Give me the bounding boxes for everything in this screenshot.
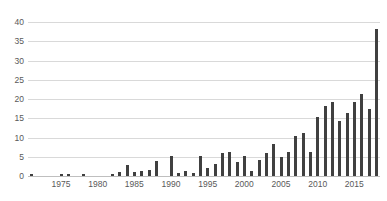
x-axis-tick-label: 1995: [198, 179, 217, 189]
bar: [67, 174, 70, 176]
bar: [346, 113, 349, 176]
bar: [309, 152, 312, 176]
bar: [258, 160, 261, 176]
x-axis-tick-label: 2000: [235, 179, 254, 189]
bar: [155, 161, 158, 176]
y-axis-tick-label: 15: [0, 114, 24, 123]
bar: [375, 29, 378, 176]
bar: [368, 109, 371, 176]
bar: [214, 164, 217, 176]
bar: [353, 102, 356, 176]
gridline-0: [28, 176, 380, 177]
bar: [228, 152, 231, 176]
y-axis-tick-label: 30: [0, 57, 24, 66]
bar: [316, 117, 319, 176]
bar: [60, 174, 63, 176]
y-axis-tick-label: 10: [0, 134, 24, 143]
bar: [177, 173, 180, 176]
x-axis-tick-label: 1985: [125, 179, 144, 189]
bar: [30, 174, 33, 176]
bar: [206, 168, 209, 176]
bar: [111, 174, 114, 176]
y-axis: 4035302520151050: [0, 22, 24, 176]
bar: [250, 171, 253, 176]
x-axis: 197519801985199019952000200520102015: [28, 179, 380, 195]
bar: [170, 156, 173, 176]
bar: [302, 133, 305, 176]
y-axis-tick-label: 40: [0, 18, 24, 27]
bar: [243, 156, 246, 176]
bar: [221, 153, 224, 176]
bar-chart: 4035302520151050 19751980198519901995200…: [0, 0, 387, 201]
bar: [331, 102, 334, 176]
bar: [148, 170, 151, 176]
bar: [360, 94, 363, 176]
x-axis-tick-label: 1980: [88, 179, 107, 189]
bar: [265, 153, 268, 176]
bar: [140, 171, 143, 176]
bar: [338, 121, 341, 176]
y-axis-tick-label: 5: [0, 153, 24, 162]
bar: [82, 174, 85, 176]
plot-area: [28, 22, 380, 176]
bar: [133, 172, 136, 176]
x-axis-tick-label: 1975: [52, 179, 71, 189]
bar: [126, 165, 129, 176]
x-axis-tick-label: 2005: [272, 179, 291, 189]
bar: [192, 173, 195, 176]
bar: [118, 172, 121, 176]
bar: [199, 156, 202, 176]
bar: [184, 171, 187, 176]
bar: [287, 152, 290, 176]
x-axis-tick-label: 1990: [162, 179, 181, 189]
y-axis-tick-label: 25: [0, 76, 24, 85]
bar: [280, 157, 283, 176]
x-axis-tick-label: 2015: [345, 179, 364, 189]
bar: [236, 162, 239, 176]
bar-series: [28, 22, 380, 176]
y-axis-tick-label: 20: [0, 95, 24, 104]
y-axis-tick-label: 35: [0, 37, 24, 46]
y-axis-tick-label: 0: [0, 172, 24, 181]
bar: [272, 144, 275, 176]
bar: [294, 136, 297, 176]
x-axis-tick-label: 2010: [308, 179, 327, 189]
bar: [324, 106, 327, 176]
